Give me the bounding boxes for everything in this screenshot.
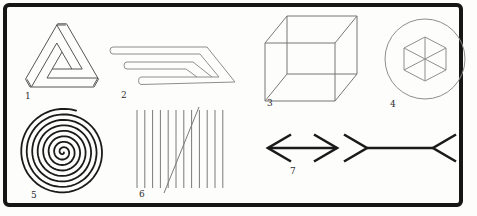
figure-label-4: 4	[390, 100, 396, 109]
hexagon-in-circle-figure	[385, 19, 465, 99]
vertical-lines-group	[137, 110, 223, 188]
figure-label-1: 1	[25, 92, 31, 101]
figure-label-2: 2	[121, 91, 127, 100]
spiral-figure	[21, 109, 102, 192]
diagonal-line	[164, 107, 199, 193]
poggendorff-figure	[137, 107, 223, 193]
figure-label-6: 6	[139, 190, 145, 199]
illusion-plate: 1 2 3 4 5 6 7	[0, 0, 477, 216]
figure-label-3: 3	[267, 99, 273, 108]
figures-canvas	[0, 0, 477, 216]
figure-label-7: 7	[290, 167, 296, 176]
impossible-prongs-figure	[110, 47, 235, 85]
penrose-triangle-figure	[26, 24, 99, 87]
figure-label-5: 5	[31, 191, 37, 200]
necker-cube-figure	[265, 16, 357, 101]
muller-lyer-figure	[268, 135, 456, 162]
